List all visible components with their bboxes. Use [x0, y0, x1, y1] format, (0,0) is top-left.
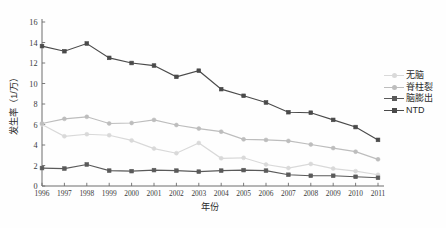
y-tick-label: 6 [33, 121, 37, 130]
data-point [264, 101, 268, 105]
data-point [309, 111, 313, 115]
data-point [62, 117, 66, 121]
data-point [130, 169, 134, 173]
data-point [130, 61, 134, 65]
data-point [174, 151, 178, 155]
y-tick-label: 8 [33, 100, 37, 109]
x-tick-label: 1996 [35, 189, 50, 198]
data-point [197, 170, 201, 174]
data-point [130, 138, 134, 142]
data-point [107, 56, 111, 60]
series-2 [40, 163, 380, 180]
data-point [331, 118, 335, 122]
x-tick-label: 2001 [147, 189, 162, 198]
data-point [40, 166, 44, 170]
data-point [376, 176, 380, 180]
y-axis-title: 发生率（1/万） [8, 73, 19, 135]
data-point [309, 174, 313, 178]
data-point [219, 156, 223, 160]
data-point [40, 121, 44, 125]
line-chart-plot: 0246810121416199619971998199920002001200… [0, 0, 446, 228]
legend-label: 脊柱裂 [404, 82, 433, 94]
x-tick-label: 1998 [79, 189, 94, 198]
legend-item-0[interactable]: 无脑 [384, 70, 442, 82]
x-tick-label: 2000 [124, 189, 139, 198]
data-point [152, 168, 156, 172]
data-point [354, 150, 358, 154]
x-tick-label: 1997 [57, 189, 72, 198]
data-point [85, 42, 89, 46]
data-point [174, 123, 178, 127]
data-point [242, 137, 246, 141]
legend-label: 脑膨出 [404, 93, 433, 105]
data-point [376, 157, 380, 161]
data-point [309, 162, 313, 166]
data-point [197, 141, 201, 145]
data-point [107, 121, 111, 125]
data-point [107, 133, 111, 137]
data-point [197, 69, 201, 73]
data-point [354, 125, 358, 129]
x-tick-label: 2007 [281, 189, 296, 198]
legend-item-2[interactable]: 脑膨出 [384, 93, 442, 105]
chart-figure: 0246810121416199619971998199920002001200… [0, 0, 446, 228]
data-point [152, 64, 156, 68]
data-point [242, 168, 246, 172]
series-1 [40, 115, 380, 162]
legend-swatch-icon [384, 71, 404, 81]
data-point [264, 162, 268, 166]
y-tick-label: 10 [29, 80, 37, 89]
x-axis-title: 年份 [201, 201, 219, 212]
chart-axes [42, 19, 384, 186]
data-point [331, 174, 335, 178]
data-point [219, 130, 223, 134]
x-tick-label: 2009 [326, 189, 341, 198]
data-point [107, 169, 111, 173]
data-point [309, 142, 313, 146]
data-point [219, 169, 223, 173]
data-point [85, 163, 89, 167]
chart-legend: 无脑脊柱裂脑膨出NTD [384, 70, 442, 116]
x-tick-label: 2004 [214, 189, 229, 198]
y-tick-label: 2 [33, 162, 37, 171]
data-point [287, 110, 291, 114]
data-point [130, 121, 134, 125]
series-line [42, 117, 378, 160]
series-3 [40, 42, 380, 142]
legend-item-3[interactable]: NTD [384, 105, 442, 117]
data-point [175, 75, 179, 79]
legend-swatch-icon [384, 105, 404, 115]
series-line [42, 125, 378, 175]
x-tick-label: 2006 [259, 189, 274, 198]
data-point [152, 147, 156, 151]
data-point [331, 146, 335, 150]
data-point [286, 166, 290, 170]
chart-series-layer [40, 42, 380, 180]
data-point [376, 138, 380, 142]
x-tick-label: 2011 [371, 189, 386, 198]
data-point [286, 139, 290, 143]
series-line [42, 44, 378, 140]
data-point [85, 132, 89, 136]
data-point [264, 169, 268, 173]
legend-item-1[interactable]: 脊柱裂 [384, 82, 442, 94]
data-point [63, 49, 67, 53]
y-tick-label: 16 [29, 18, 37, 27]
x-tick-label: 2002 [169, 189, 184, 198]
x-tick-label: 2003 [191, 189, 206, 198]
data-point [219, 87, 223, 91]
data-point [62, 134, 66, 138]
data-point [40, 44, 44, 48]
data-point [85, 115, 89, 119]
legend-swatch-icon [384, 82, 404, 92]
x-tick-label: 2005 [236, 189, 251, 198]
y-tick-label: 14 [29, 39, 37, 48]
y-tick-label: 12 [29, 59, 37, 68]
legend-label: 无脑 [404, 70, 424, 82]
legend-label: NTD [404, 105, 425, 117]
data-point [287, 173, 291, 177]
data-point [242, 94, 246, 98]
data-point [264, 138, 268, 142]
data-point [354, 169, 358, 173]
data-point [242, 156, 246, 160]
